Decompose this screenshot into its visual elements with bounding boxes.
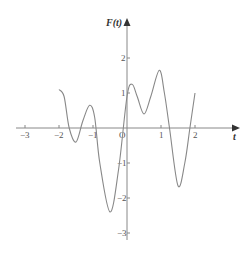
function-plot: −3−2−112 21−1−2−3 t F(t) O [0,0,247,258]
y-ticks: 21−1−2−3 [117,53,130,238]
x-tick-label: −2 [54,130,64,140]
y-axis-label: F(t) [105,17,122,29]
y-tick-label: −2 [117,193,127,203]
y-axis-arrow-icon [124,18,131,26]
y-tick-label: 1 [121,88,126,98]
x-tick-label: −3 [20,130,30,140]
axes [16,18,240,240]
x-tick-label: 2 [193,130,198,140]
y-tick-label: −3 [117,228,127,238]
x-axis-label: t [233,131,237,142]
y-tick-label: 2 [121,53,126,63]
x-tick-label: 1 [159,130,164,140]
